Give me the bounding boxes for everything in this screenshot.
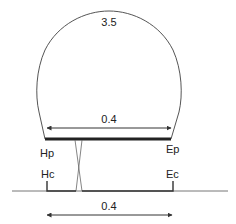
- point-label-ep: Ep: [166, 143, 179, 155]
- point-label-ec: Ec: [166, 168, 179, 180]
- top-span-label: 0.4: [101, 113, 116, 125]
- point-label-hc: Hc: [41, 168, 55, 180]
- bottom-span-label: 0.4: [101, 200, 116, 212]
- hc-ec-bracket: [47, 181, 173, 191]
- diagram-canvas: 3.5 0.4 Hp Ep Hc Ec 0.4: [0, 0, 236, 224]
- loop-label: 3.5: [101, 16, 116, 28]
- point-label-hp: Hp: [40, 147, 54, 159]
